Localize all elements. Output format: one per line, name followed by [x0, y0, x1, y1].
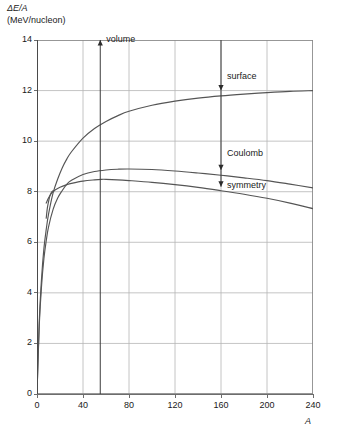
- x-axis-title: A: [305, 416, 311, 426]
- x-axis-tick-label: 40: [71, 400, 95, 410]
- x-axis-tick-label: 0: [25, 400, 49, 410]
- plot-area: [37, 40, 313, 394]
- y-axis-tick-label: 4: [10, 287, 32, 297]
- annotation-label-coulomb: Coulomb: [227, 148, 263, 158]
- y-axis-tick-label: 12: [10, 85, 32, 95]
- y-axis-tick-label: 0: [10, 388, 32, 398]
- y-axis-label-line2: (MeV/nucleon): [7, 15, 66, 25]
- annotation-arrowhead: [218, 85, 223, 91]
- y-axis-tick-label: 8: [10, 186, 32, 196]
- y-axis-tick-label: 2: [10, 337, 32, 347]
- annotation-label-surface: surface: [227, 71, 257, 81]
- annotation-arrowhead: [218, 181, 223, 187]
- y-axis-label-line1: ΔE/A: [7, 3, 28, 13]
- x-axis-tick-label: 80: [117, 400, 141, 410]
- annotation-label-volume: volume: [106, 34, 135, 44]
- annotation-arrowhead: [218, 165, 223, 171]
- annotation-arrows: [98, 40, 224, 394]
- x-axis-tick-label: 120: [163, 400, 187, 410]
- data-curve: [46, 179, 313, 208]
- y-axis-line: [37, 40, 38, 394]
- chart-svg: [37, 40, 313, 394]
- x-axis-tick-label: 160: [209, 400, 233, 410]
- y-axis-tick-label: 14: [10, 34, 32, 44]
- x-axis-tick-label: 240: [301, 400, 325, 410]
- y-axis-tick-label: 10: [10, 135, 32, 145]
- y-axis-tick-label: 6: [10, 236, 32, 246]
- y-axis-label: ΔE/A(MeV/nucleon): [7, 3, 66, 26]
- x-axis-line: [37, 394, 313, 395]
- chart-figure: ΔE/A(MeV/nucleon) 0246810121404080120160…: [0, 0, 345, 443]
- annotation-label-symmetry: symmetry: [227, 180, 266, 190]
- grid-lines: [37, 40, 313, 394]
- x-axis-tick-label: 200: [255, 400, 279, 410]
